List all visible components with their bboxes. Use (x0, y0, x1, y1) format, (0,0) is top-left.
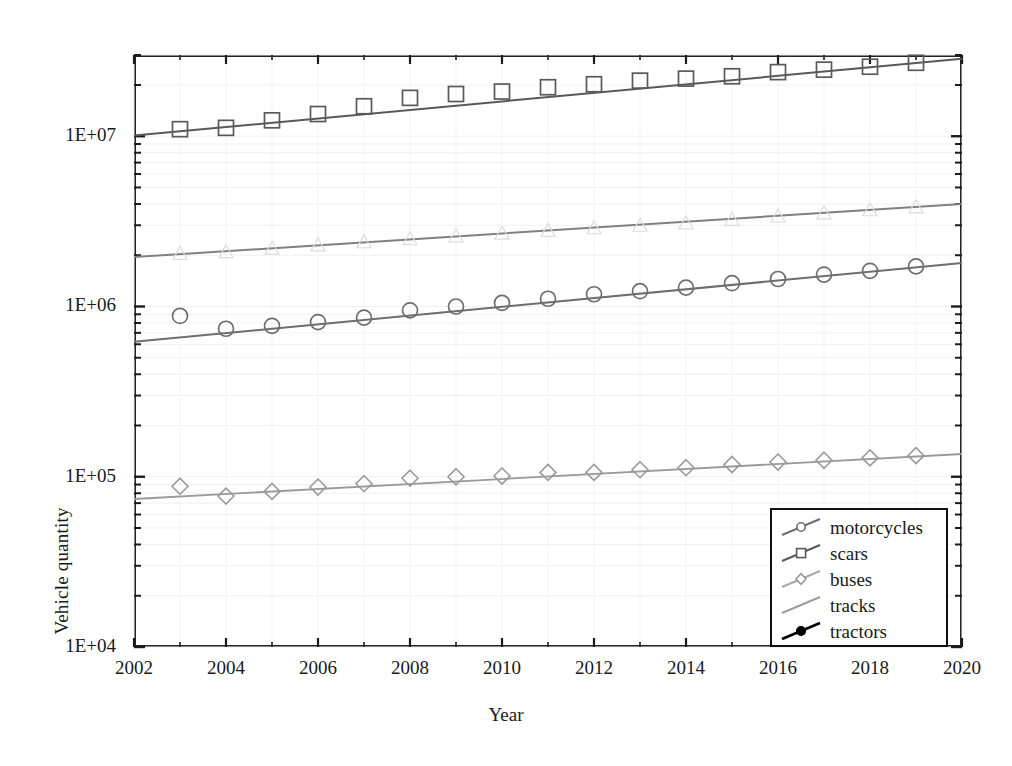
x-tick-label: 2002 (89, 657, 179, 679)
y-tick-label: 1E+07 (26, 124, 116, 146)
x-tick-label: 2014 (641, 657, 731, 679)
y-tick-label: 1E+05 (26, 465, 116, 487)
legend-symbol-buses-icon (778, 567, 824, 591)
legend-label-scars: scars (824, 544, 868, 563)
x-axis-title: Year (0, 704, 1012, 726)
legend-item-motorcycles[interactable]: motorcycles (772, 514, 946, 540)
x-tick-label: 2018 (825, 657, 915, 679)
x-tick-label: 2006 (273, 657, 363, 679)
legend-item-tracks[interactable]: tracks (772, 592, 946, 618)
legend-item-tractors[interactable]: tractors (772, 618, 946, 644)
x-tick-label: 2016 (733, 657, 823, 679)
y-tick-label: 1E+04 (26, 635, 116, 657)
legend-label-tractors: tractors (824, 622, 887, 641)
legend-symbol-scars-icon (778, 541, 824, 565)
legend-label-tracks: tracks (824, 596, 875, 615)
x-tick-label: 2004 (181, 657, 271, 679)
x-tick-label: 2008 (365, 657, 455, 679)
legend-symbol-tractors-icon (778, 619, 824, 643)
legend-item-buses[interactable]: buses (772, 566, 946, 592)
x-tick-label: 2012 (549, 657, 639, 679)
x-tick-label: 2010 (457, 657, 547, 679)
chart-canvas (0, 0, 1012, 766)
legend-symbol-motorcycles-icon (778, 515, 824, 539)
legend-symbol-tracks-icon (778, 593, 824, 617)
legend-label-buses: buses (824, 570, 872, 589)
legend-label-motorcycles: motorcycles (824, 518, 923, 537)
x-tick-label: 2020 (917, 657, 1007, 679)
chart-page: Vehicle quantity Year motorcycles scars (0, 0, 1012, 766)
y-tick-label: 1E+06 (26, 294, 116, 316)
legend-item-scars[interactable]: scars (772, 540, 946, 566)
chart-legend: motorcycles scars buses tracks (770, 508, 948, 647)
